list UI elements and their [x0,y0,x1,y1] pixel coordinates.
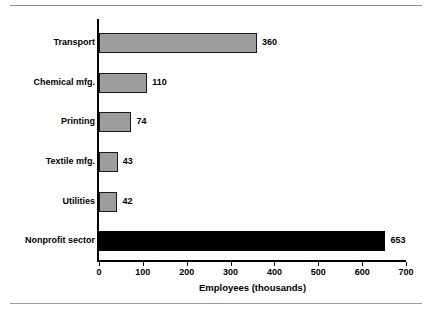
x-axis-tick [143,262,144,266]
x-axis-tick-label: 700 [398,267,413,277]
category-label: Utilities [62,196,95,206]
x-axis-tick-label: 100 [135,267,150,277]
x-axis-tick-label: 400 [267,267,282,277]
category-label-wrap: Textile mfg. [0,152,95,172]
bar-row: 74 [99,112,406,132]
category-label-wrap: Nonprofit sector [0,231,95,251]
x-axis-tick [318,262,319,266]
x-axis-title: Employees (thousands) [99,282,406,293]
page-rule-top [10,5,422,6]
bar-chart-figure: 0100200300400500600700360110744342653 Em… [0,0,429,316]
x-axis-tick [406,262,407,266]
bar-value-label: 42 [122,196,132,206]
x-axis-tick [274,262,275,266]
bar-row: 360 [99,33,406,53]
category-label: Printing [61,116,95,126]
x-axis-tick [187,262,188,266]
bar-row: 110 [99,73,406,93]
x-axis-tick-label: 0 [96,267,101,277]
bar-row: 43 [99,152,406,172]
category-label: Chemical mfg. [33,77,95,87]
bar-value-label: 110 [152,77,167,87]
bar-utilities [99,192,117,212]
bar-value-label: 74 [136,116,146,126]
category-label-wrap: Utilities [0,192,95,212]
bar-transport [99,33,257,53]
category-label-wrap: Printing [0,112,95,132]
bar-row: 42 [99,192,406,212]
y-axis-line [97,19,99,260]
x-axis-tick-label: 200 [179,267,194,277]
plot-area: 0100200300400500600700360110744342653 [99,22,406,260]
bar-printing [99,112,131,132]
x-axis-tick-label: 600 [355,267,370,277]
x-axis-tick [362,262,363,266]
page-rule-bottom [10,303,422,304]
category-label-wrap: Transport [0,33,95,53]
bar-textile-mfg [99,152,118,172]
category-label: Transport [53,37,95,47]
bar-nonprofit-sector [99,231,385,251]
bar-chemical-mfg [99,73,147,93]
category-label: Nonprofit sector [25,235,95,245]
bar-value-label: 360 [262,37,277,47]
category-label-wrap: Chemical mfg. [0,73,95,93]
bar-value-label: 653 [390,235,405,245]
x-axis-tick-label: 500 [311,267,326,277]
x-axis-tick-label: 300 [223,267,238,277]
bar-row: 653 [99,231,406,251]
x-axis-tick [231,262,232,266]
bar-value-label: 43 [123,156,133,166]
category-label: Textile mfg. [46,156,95,166]
x-axis-tick [99,262,100,266]
